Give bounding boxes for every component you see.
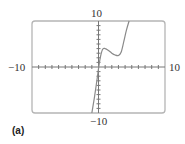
y-max-label: 10 [91, 8, 102, 19]
x-max-label: 10 [169, 62, 180, 73]
y-min-label: −10 [90, 116, 107, 127]
x-min-label: −10 [8, 62, 25, 73]
figure-caption: (a) [12, 125, 24, 136]
